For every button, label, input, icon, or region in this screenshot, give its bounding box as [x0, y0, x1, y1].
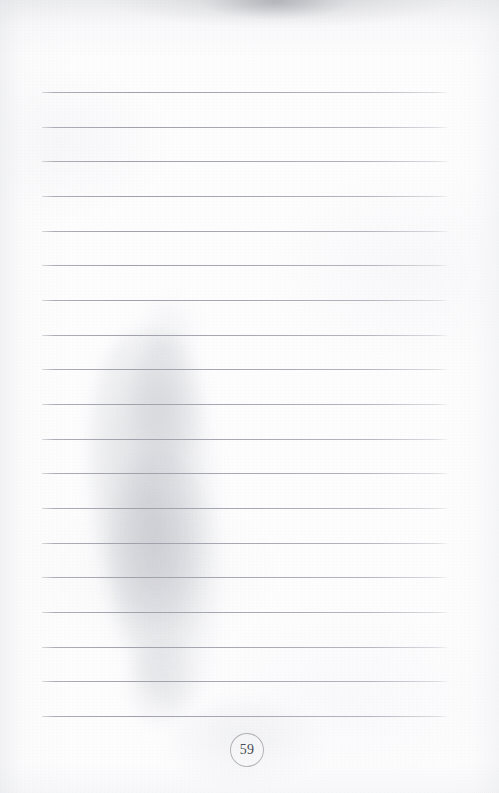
rule-line [42, 577, 448, 578]
page-number-badge: 59 [230, 733, 264, 767]
rule-line [42, 612, 448, 613]
ruled-lines-group [0, 0, 499, 793]
rule-line [42, 543, 448, 544]
rule-line [42, 335, 448, 336]
rule-line [42, 681, 448, 682]
rule-line [42, 439, 448, 440]
rule-line [42, 92, 448, 93]
rule-line [42, 300, 448, 301]
rule-line [42, 716, 448, 717]
rule-line [42, 231, 448, 232]
rule-line [42, 265, 448, 266]
rule-line [42, 508, 448, 509]
page-number-label: 59 [240, 743, 254, 758]
rule-line [42, 404, 448, 405]
rule-line [42, 473, 448, 474]
rule-line [42, 161, 448, 162]
rule-line [42, 127, 448, 128]
rule-line [42, 369, 448, 370]
scanned-page: 59 [0, 0, 499, 793]
rule-line [42, 647, 448, 648]
rule-line [42, 196, 448, 197]
